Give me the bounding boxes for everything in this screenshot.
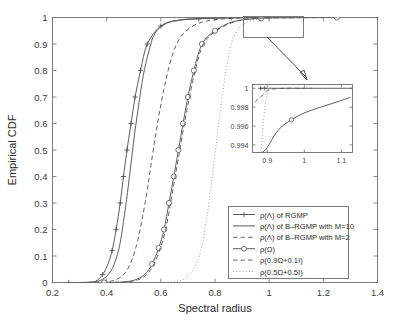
y-tick-label: 1: [42, 12, 47, 23]
legend-label-3: ρ(Ω): [260, 245, 276, 254]
y-tick-label: 0.2: [34, 224, 47, 235]
x-tick-label: 0.8: [208, 287, 221, 298]
y-tick-label: 0: [42, 277, 47, 288]
circle-marker: [101, 280, 106, 285]
y-tick-label: 0.5: [34, 145, 47, 156]
legend-circle-marker-3: [242, 246, 247, 251]
inset-y-tick-label: 1: [245, 84, 249, 93]
inset-plot-frame: [253, 85, 353, 153]
inset-x-tick-label: 1.1: [336, 156, 346, 165]
y-tick-label: 0.4: [34, 171, 47, 182]
zoom-region-box: [244, 17, 304, 38]
y-tick-label: 0.3: [34, 198, 47, 209]
legend-label-5: ρ(0.5Ω+0.5I): [260, 268, 303, 277]
inset-x-tick-label: 1: [302, 156, 306, 165]
cdf-chart: 0.20.40.60.811.21.4 00.10.20.30.40.50.60…: [0, 0, 405, 329]
x-tick-label: 1.2: [317, 287, 330, 298]
inset-y-tick-label: 0.996: [231, 122, 249, 131]
circle-marker: [166, 200, 171, 205]
x-axis-label: Spectral radius: [178, 302, 252, 314]
x-tick-label: 0.2: [46, 287, 59, 298]
y-tick-label: 0.7: [34, 92, 47, 103]
inset-y-tick-label: 0.994: [231, 141, 249, 150]
legend-label-4: ρ(0.9Ω+0.1I): [260, 256, 303, 265]
legend-label-2: ρ(Λ) of B–RGMP with M=2: [260, 233, 350, 242]
y-axis-label: Empirical CDF: [6, 114, 18, 185]
inset-y-tick-label: 0.998: [231, 103, 249, 112]
x-tick-label: 1: [267, 287, 272, 298]
circle-marker: [289, 118, 293, 122]
y-tick-label: 0.8: [34, 65, 47, 76]
x-tick-label: 0.6: [154, 287, 167, 298]
y-tick-label: 0.9: [34, 39, 47, 50]
x-tick-label: 0.4: [100, 287, 113, 298]
y-tick-label: 0.6: [34, 118, 47, 129]
x-tick-label: 1.4: [371, 287, 384, 298]
series-markers-2: [289, 118, 293, 122]
legend-label-0: ρ(Λ) of RGMP: [260, 211, 308, 220]
inset-x-tick-label: 0.9: [262, 156, 272, 165]
y-tick-label: 0.1: [34, 251, 47, 262]
legend-label-1: ρ(Λ) of B–RGMP with M=10: [260, 222, 354, 231]
circle-marker: [191, 68, 196, 73]
figure-root: 0.20.40.60.811.21.4 00.10.20.30.40.50.60…: [0, 0, 405, 329]
series-markers-0: [66, 15, 234, 285]
circle-marker: [334, 15, 339, 20]
